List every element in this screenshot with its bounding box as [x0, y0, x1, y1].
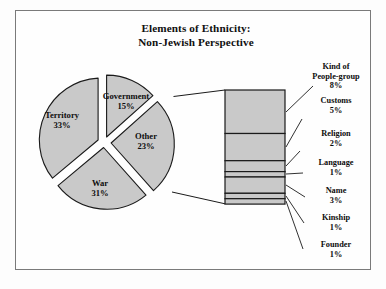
- detail-label-kind-of-people-group-value: 8%: [300, 81, 372, 91]
- detail-label-kinship: Kinship 1%: [304, 213, 368, 232]
- detail-label-name-name: Name: [326, 186, 347, 195]
- detail-label-customs: Customs 5%: [304, 96, 368, 115]
- pie-label-government-value: 15%: [92, 101, 160, 111]
- pie-label-government: Government 15%: [92, 91, 160, 111]
- leader-line-language: [286, 173, 303, 174]
- detail-bar-segment-kinship[interactable]: [225, 193, 285, 198]
- pie-label-territory-value: 33%: [32, 120, 92, 130]
- detail-label-kind-of-people-group: Kind of People-group 8%: [300, 62, 372, 91]
- detail-connector-top: [174, 90, 226, 97]
- detail-label-kinship-value: 1%: [304, 223, 368, 233]
- detail-label-kinship-name: Kinship: [322, 213, 350, 222]
- detail-connector-bottom: [172, 192, 225, 204]
- detail-label-religion-value: 2%: [304, 139, 368, 149]
- detail-bar-segment-name[interactable]: [225, 177, 285, 193]
- detail-label-name: Name 3%: [304, 186, 368, 205]
- detail-label-founder: Founder 1%: [304, 240, 368, 259]
- pie-label-other-name: Other: [135, 131, 157, 141]
- pie-label-territory-name: Territory: [45, 110, 79, 120]
- detail-label-language-value: 1%: [302, 168, 370, 178]
- leader-line-name: [286, 185, 305, 197]
- chart-figure: Elements of Ethnicity: Non-Jewish Perspe…: [0, 0, 386, 289]
- detail-bar-group: [225, 90, 285, 204]
- detail-label-customs-name: Customs: [321, 96, 352, 105]
- detail-label-religion-name: Religion: [321, 129, 351, 138]
- detail-label-language: Language 1%: [302, 158, 370, 177]
- detail-label-founder-name: Founder: [321, 240, 351, 249]
- detail-bar-segment-language[interactable]: [225, 172, 285, 177]
- chart-title-line1: Elements of Ethnicity:: [141, 22, 250, 34]
- chart-title: Elements of Ethnicity: Non-Jewish Perspe…: [88, 22, 304, 49]
- detail-bar-segment-religion[interactable]: [225, 161, 285, 172]
- pie-label-territory: Territory 33%: [32, 110, 92, 130]
- detail-bar-segment-founder[interactable]: [225, 199, 285, 204]
- detail-label-religion: Religion 2%: [304, 129, 368, 148]
- pie-label-war: War 31%: [80, 178, 120, 198]
- pie-label-other-value: 23%: [123, 141, 169, 151]
- detail-label-name-value: 3%: [304, 196, 368, 206]
- detail-label-founder-value: 1%: [304, 250, 368, 260]
- pie-label-other: Other 23%: [123, 131, 169, 151]
- detail-label-language-name: Language: [318, 158, 353, 167]
- pie-label-government-name: Government: [103, 91, 149, 101]
- leader-line-religion: [286, 151, 300, 166]
- detail-label-kind-of-people-group-name2: People-group: [300, 72, 372, 82]
- pie-label-war-value: 31%: [80, 188, 120, 198]
- detail-label-customs-value: 5%: [304, 106, 368, 116]
- detail-label-kind-of-people-group-name1: Kind of: [323, 62, 350, 71]
- leader-line-customs: [286, 119, 302, 147]
- detail-bar-segment-customs[interactable]: [225, 134, 285, 161]
- pie-label-war-name: War: [92, 178, 108, 188]
- detail-bar-segment-kind-of-people-group[interactable]: [225, 90, 285, 134]
- chart-title-line2: Non-Jewish Perspective: [88, 36, 304, 50]
